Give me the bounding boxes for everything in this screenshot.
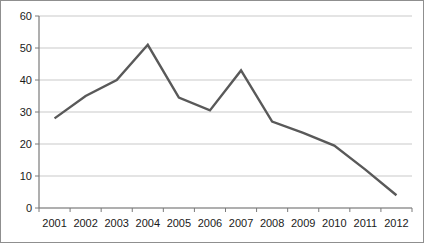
x-tick-label: 2001 (42, 217, 66, 229)
y-tick-label: 30 (20, 106, 32, 118)
y-axis: 0102030405060 (20, 10, 39, 214)
x-tick-label: 2008 (260, 217, 284, 229)
gridlines (39, 16, 412, 208)
y-tick-label: 10 (20, 170, 32, 182)
y-tick-label: 60 (20, 10, 32, 22)
chart-figure: 0102030405060200120022003200420052006200… (0, 0, 424, 243)
data-series-line (55, 45, 397, 195)
x-tick-label: 2002 (73, 217, 97, 229)
x-tick-label: 2010 (322, 217, 346, 229)
x-tick-label: 2011 (354, 217, 378, 229)
x-axis-labels: 2001200220032004200520062007200820092010… (42, 217, 408, 229)
x-tick-label: 2012 (384, 217, 408, 229)
line-chart-plot: 0102030405060200120022003200420052006200… (1, 1, 424, 243)
x-tick-label: 2004 (136, 217, 160, 229)
y-tick-label: 20 (20, 138, 32, 150)
x-tick-label: 2007 (229, 217, 253, 229)
x-tick-label: 2009 (291, 217, 315, 229)
x-tick-label: 2005 (167, 217, 191, 229)
y-tick-label: 0 (26, 202, 32, 214)
y-tick-label: 50 (20, 42, 32, 54)
x-tick-label: 2006 (198, 217, 222, 229)
x-tick-label: 2003 (104, 217, 128, 229)
x-tick-marks (39, 208, 412, 212)
y-tick-label: 40 (20, 74, 32, 86)
